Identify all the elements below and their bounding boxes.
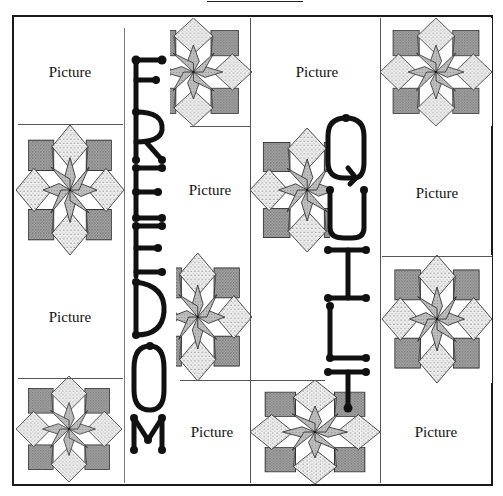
picture-label: Picture xyxy=(296,64,339,81)
picture-block: Picture xyxy=(14,18,126,126)
eight-point-star-icon xyxy=(250,128,330,252)
picture-label: Picture xyxy=(191,424,234,441)
picture-block: Picture xyxy=(172,382,252,482)
quilt-lettering xyxy=(320,110,380,415)
title-rule xyxy=(207,1,303,2)
picture-label: Picture xyxy=(49,64,92,81)
eight-point-star-icon xyxy=(16,376,122,482)
picture-block: Picture xyxy=(170,128,250,252)
eight-point-star-icon xyxy=(382,255,492,383)
star-quilt-block xyxy=(250,128,330,252)
eight-point-star-icon xyxy=(170,18,252,126)
star-quilt-block xyxy=(382,255,492,383)
picture-block: Picture xyxy=(382,128,492,258)
star-quilt-block xyxy=(380,18,492,126)
picture-block: Picture xyxy=(14,255,126,380)
seam-line xyxy=(180,380,325,381)
freedom-lettering xyxy=(122,50,182,460)
freedom-letters-icon xyxy=(122,50,182,460)
picture-block: Picture xyxy=(380,382,492,482)
picture-label: Picture xyxy=(416,185,459,202)
star-quilt-block xyxy=(170,18,252,126)
eight-point-star-icon xyxy=(16,125,124,255)
star-quilt-block xyxy=(176,253,252,381)
seam-line xyxy=(250,18,251,483)
quilt-letters-icon xyxy=(320,110,380,415)
picture-label: Picture xyxy=(49,309,92,326)
picture-block: Picture xyxy=(252,255,330,380)
star-quilt-block xyxy=(16,125,124,255)
seam-line xyxy=(190,126,250,127)
eight-point-star-icon xyxy=(176,253,252,381)
seam-line xyxy=(18,378,123,379)
eight-point-star-icon xyxy=(380,18,492,126)
seam-line xyxy=(382,256,492,257)
seam-line xyxy=(380,18,381,483)
star-quilt-block xyxy=(16,376,122,482)
picture-label: Picture xyxy=(189,182,232,199)
seam-line xyxy=(18,124,123,125)
picture-label: Picture xyxy=(415,424,458,441)
